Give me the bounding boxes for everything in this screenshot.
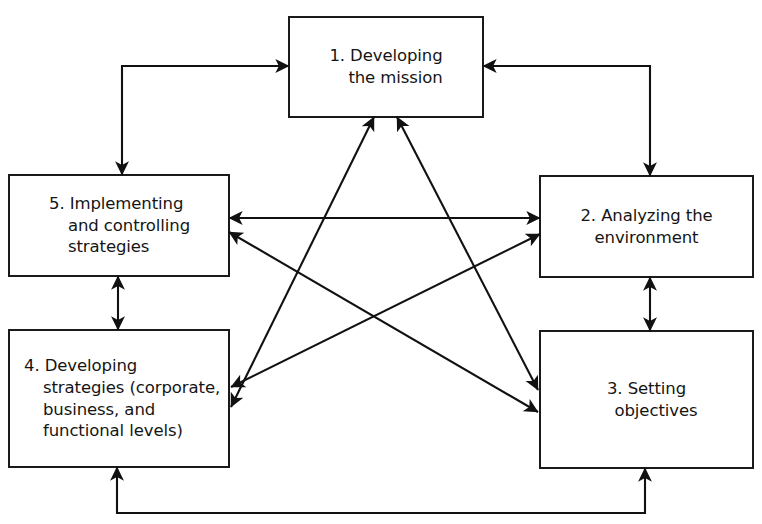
box-implementing-and-controlling-strategies bbox=[9, 175, 229, 276]
box-analyzing-the-environment bbox=[540, 176, 753, 277]
box-setting-objectives bbox=[540, 331, 753, 468]
connector-mission-to-developing bbox=[231, 117, 374, 407]
connector-mission-to-objectives bbox=[397, 117, 538, 390]
diagram-canvas bbox=[0, 0, 762, 524]
connector-developing-to-objectives bbox=[117, 467, 645, 513]
box-developing-the-mission bbox=[289, 17, 483, 117]
box-developing-strategies bbox=[9, 330, 229, 467]
connector-developing-to-analyzing bbox=[231, 234, 540, 387]
strategic-management-process-diagram: 1. Developing the mission 2. Analyzing t… bbox=[0, 0, 762, 524]
connector-mission-to-analyzing bbox=[483, 66, 650, 176]
connector-implementing-to-mission bbox=[122, 66, 289, 175]
